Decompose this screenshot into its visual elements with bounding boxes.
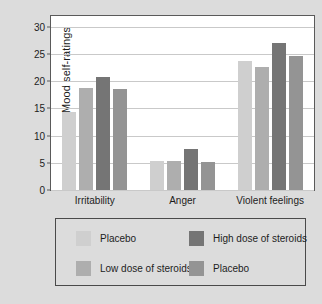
legend-swatch: [189, 261, 204, 276]
legend-swatch: [189, 231, 204, 246]
legend-swatch: [76, 231, 91, 246]
y-tick-label: 5: [39, 157, 45, 168]
y-tick-label: 25: [34, 49, 45, 60]
bars-layer: [51, 16, 314, 190]
gridline: [51, 190, 314, 191]
legend-entry: High dose of steroids: [189, 231, 307, 246]
y-tick-label: 30: [34, 21, 45, 32]
x-tick-label: Violent feelings: [236, 195, 304, 206]
bar: [289, 56, 303, 190]
x-tick-label: Irritability: [75, 195, 115, 206]
y-tick-label: 15: [34, 103, 45, 114]
bar-group: [51, 16, 314, 190]
legend-label: Placebo: [100, 233, 136, 244]
legend-label: Placebo: [213, 263, 249, 274]
legend-entry: Placebo: [76, 231, 136, 246]
legend-label: High dose of steroids: [213, 233, 307, 244]
x-tick-label: Anger: [169, 195, 196, 206]
bar: [255, 67, 269, 190]
bar: [272, 43, 286, 190]
legend-label: Low dose of steroids: [100, 263, 192, 274]
legend-entry: Low dose of steroids: [76, 261, 192, 276]
bar: [238, 61, 252, 190]
y-tick-label: 10: [34, 130, 45, 141]
plot-area: Mood self-ratings 051015202530 Irritabil…: [50, 15, 315, 191]
legend: PlaceboHigh dose of steroidsLow dose of …: [55, 218, 306, 286]
y-tick-label: 20: [34, 76, 45, 87]
legend-swatch: [76, 261, 91, 276]
legend-entry: Placebo: [189, 261, 249, 276]
y-tick-label: 0: [39, 185, 45, 196]
chart-screenshot: Mood self-ratings 051015202530 Irritabil…: [0, 0, 322, 304]
